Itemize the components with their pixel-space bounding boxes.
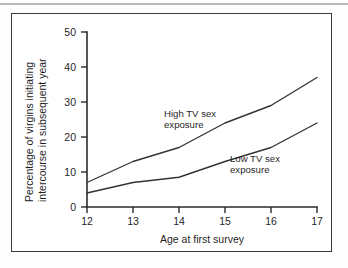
x-tick-label-14: 14 xyxy=(173,215,185,227)
y-tick-label-40: 40 xyxy=(64,61,76,73)
x-tick-label-16: 16 xyxy=(265,215,277,227)
y-tick-label-30: 30 xyxy=(64,96,76,108)
annotation-low-exposure-line2: exposure xyxy=(230,164,269,175)
y-axis-title-line1: Percentage of virgins initiating xyxy=(23,62,35,202)
annotation-high-exposure-line1: High TV sex xyxy=(164,108,216,119)
y-tick-label-10: 10 xyxy=(64,166,76,178)
x-tick-label-12: 12 xyxy=(81,215,93,227)
y-tick-label-50: 50 xyxy=(64,26,76,38)
annotation-high-exposure-line2: exposure xyxy=(164,119,203,130)
x-tick-label-13: 13 xyxy=(127,215,139,227)
page-top-rule xyxy=(0,3,348,5)
y-tick-label-20: 20 xyxy=(64,131,76,143)
line-chart: 50 40 30 20 10 0 Percentage of virgins i… xyxy=(12,14,330,250)
x-tick-label-17: 17 xyxy=(311,215,323,227)
figure-container: 50 40 30 20 10 0 Percentage of virgins i… xyxy=(11,13,332,252)
x-tick-label-15: 15 xyxy=(219,215,231,227)
page-root: 50 40 30 20 10 0 Percentage of virgins i… xyxy=(0,0,348,268)
annotation-low-exposure-line1: Low TV sex xyxy=(230,153,280,164)
x-axis-title: Age at first survey xyxy=(160,233,245,245)
y-axis-title-line2: intercourse in subsequent year xyxy=(36,58,48,202)
series-line-high-tv-sex-exposure xyxy=(87,78,317,183)
y-tick-label-0: 0 xyxy=(70,201,76,213)
series-line-low-tv-sex-exposure xyxy=(87,123,317,193)
